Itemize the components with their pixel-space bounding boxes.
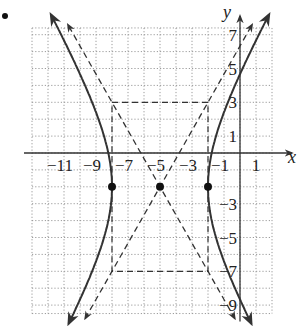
y-tick-label: 7 <box>229 26 238 45</box>
tick-labels: −11−9−7−5−3−117531−3−5−7−9xy <box>47 2 296 315</box>
x-tick-label: −3 <box>179 156 197 175</box>
y-tick-label: 1 <box>229 127 238 146</box>
x-tick-label: −1 <box>211 156 229 175</box>
y-tick-label: −7 <box>219 262 238 281</box>
y-tick-label: 3 <box>229 93 238 112</box>
x-tick-label: −9 <box>83 156 101 175</box>
y-tick-label: 5 <box>229 60 238 79</box>
point-right-vertex <box>204 183 212 191</box>
x-axis-label: x <box>287 147 296 167</box>
point-left-vertex <box>108 183 116 191</box>
y-tick-label: −9 <box>219 296 237 315</box>
x-tick-label: −7 <box>115 156 134 175</box>
hyperbola-graph: −11−9−7−5−3−117531−3−5−7−9xy <box>0 0 304 331</box>
y-tick-label: −5 <box>219 229 237 248</box>
x-tick-label: 1 <box>252 156 261 175</box>
point-center <box>156 183 164 191</box>
y-axis-label: y <box>221 2 231 22</box>
y-tick-label: −3 <box>219 195 237 214</box>
x-tick-label: −11 <box>47 156 73 175</box>
x-tick-label: −5 <box>147 156 165 175</box>
